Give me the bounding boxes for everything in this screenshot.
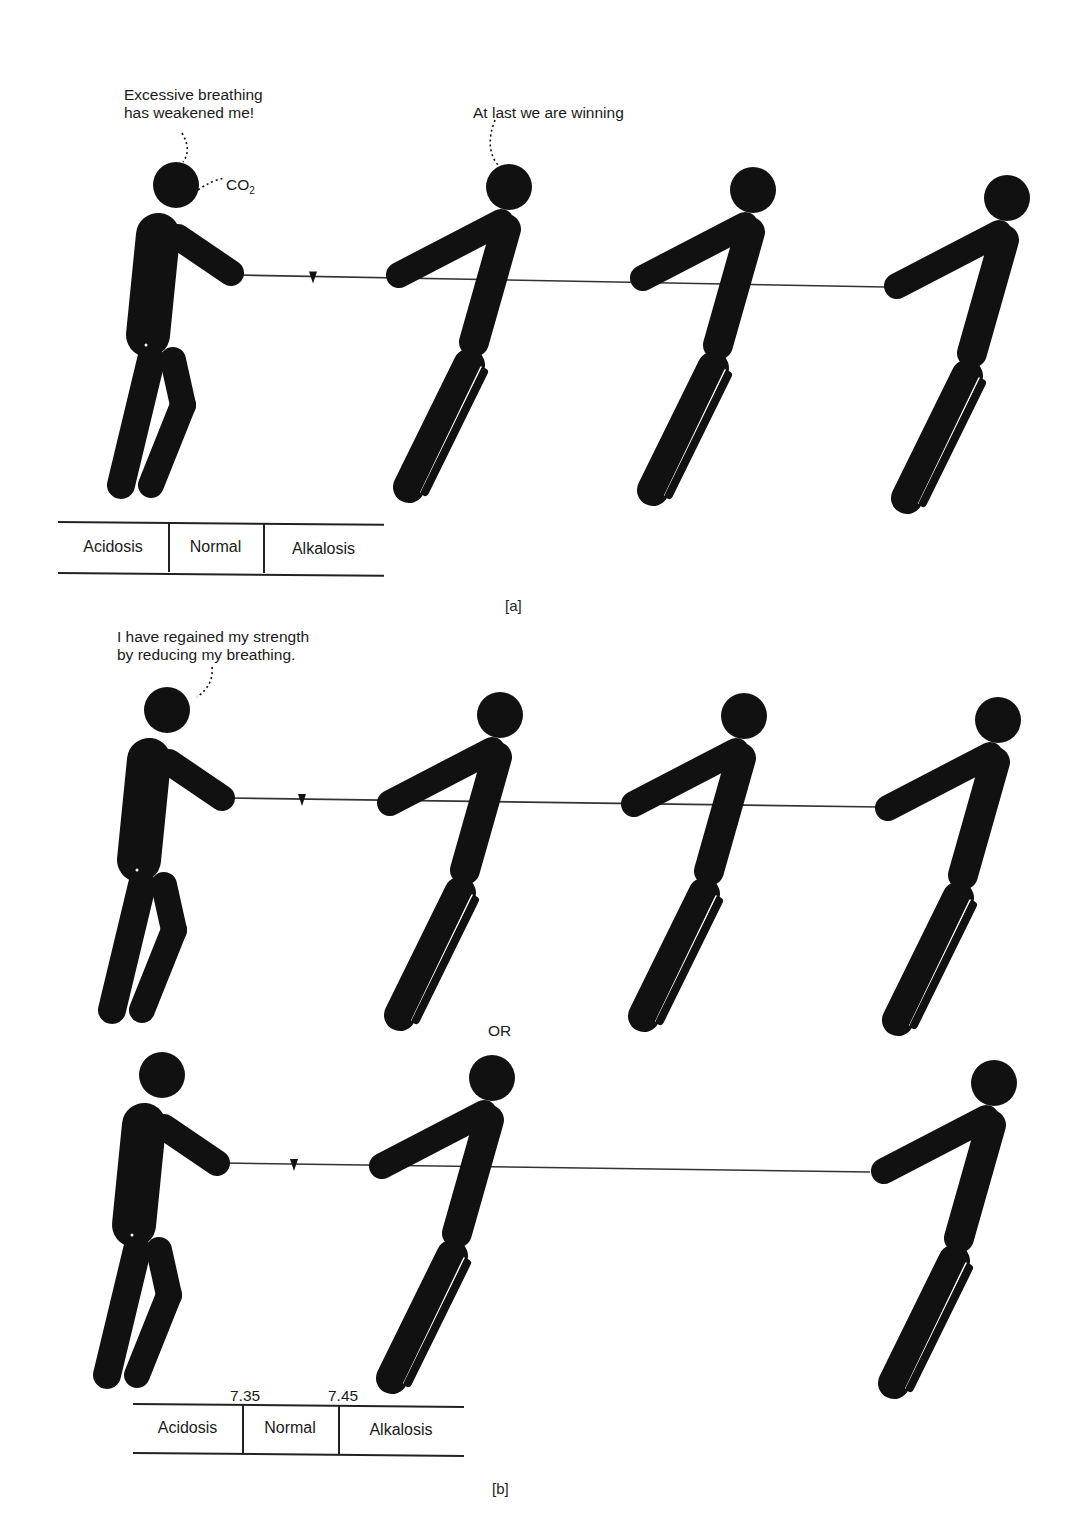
speech-pointer [197,667,212,697]
arm [178,237,231,273]
caption-b: [b] [492,1480,509,1497]
speech-winning: At last we are winning [473,104,624,122]
head [971,1060,1017,1106]
scale-acidosis: Acidosis [133,1403,242,1453]
speech-pointer [490,120,498,165]
head [153,162,199,208]
figures-canvas [0,0,1076,1513]
rope [236,275,885,287]
rope-center-marker [290,1159,298,1171]
head [477,692,523,738]
speech-regained-line2: by reducing my breathing. [117,646,295,664]
leg-front-shin [137,1295,169,1375]
or-label: OR [488,1022,511,1040]
scale-acidosis: Acidosis [58,521,168,573]
head [721,693,767,739]
joint-highlight [136,869,139,872]
head [984,175,1030,221]
caption-a: [a] [505,597,522,614]
rope [230,798,880,807]
speech-weak-line1: Excessive breathing [124,86,263,104]
joint-highlight [145,344,148,347]
torso [134,1125,144,1225]
scale-alkalosis: Alkalosis [263,523,384,575]
head [730,167,776,213]
rope-center-marker [298,794,306,806]
arm [169,762,222,798]
arm [164,1127,217,1163]
leg-front-shin [142,930,174,1010]
joint-highlight [131,1234,134,1237]
scale-alkalosis: Alkalosis [338,1405,464,1455]
head [139,1052,185,1098]
ph-scale-a: Acidosis Normal Alkalosis [58,521,384,573]
tug-of-war-diagram: Excessive breathing has weakened me! CO2… [0,0,1076,1513]
head [486,164,532,210]
speech-weak-line2: has weakened me! [124,104,254,122]
co2-label: CO2 [226,176,255,200]
leg-front-shin [151,405,183,485]
co2-pointer [198,178,225,190]
torso [148,235,158,335]
head [469,1055,515,1101]
scale-normal: Normal [242,1403,338,1453]
speech-pointer [182,133,187,162]
scale-normal: Normal [168,521,263,573]
torso [139,760,149,860]
speech-regained-line1: I have regained my strength [117,628,309,646]
head [975,697,1021,743]
ph-scale-b: Acidosis Normal Alkalosis [133,1403,464,1453]
rope [222,1163,870,1172]
head [144,687,190,733]
rope-center-marker [309,271,317,283]
